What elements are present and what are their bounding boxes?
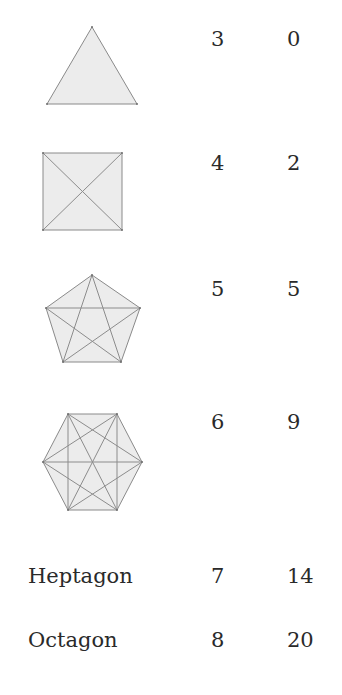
table-row: Octagon 8 20 — [0, 628, 342, 658]
sides-count: 6 — [211, 410, 224, 434]
sides-count: 8 — [211, 628, 224, 652]
hexagon-icon — [0, 0, 342, 520]
diagonals-count: 9 — [287, 410, 300, 434]
diagonals-count: 14 — [287, 564, 314, 588]
table-row: 6 9 — [0, 0, 342, 520]
table-row: Heptagon 7 14 — [0, 564, 342, 594]
diagonals-count: 20 — [287, 628, 314, 652]
sides-count: 7 — [211, 564, 224, 588]
polygon-name: Heptagon — [28, 564, 133, 588]
polygon-name: Octagon — [28, 628, 118, 652]
